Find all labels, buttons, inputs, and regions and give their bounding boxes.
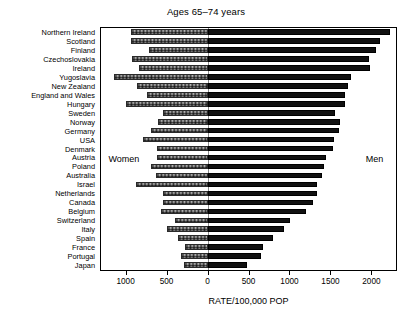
x-axis-tick bbox=[208, 271, 209, 275]
bar-row bbox=[101, 109, 396, 118]
bar-row bbox=[101, 55, 396, 64]
y-axis-label: Belgium bbox=[68, 207, 95, 216]
bar-men bbox=[208, 173, 323, 179]
x-axis-tick bbox=[330, 271, 331, 275]
bar-row bbox=[101, 82, 396, 91]
bar-women bbox=[163, 110, 208, 116]
y-axis-label: Scotland bbox=[66, 37, 95, 46]
bar-men bbox=[208, 119, 341, 125]
bar-women bbox=[137, 83, 207, 89]
bar-row bbox=[101, 234, 396, 243]
y-axis-label: Italy bbox=[81, 225, 95, 234]
bar-men bbox=[208, 226, 285, 232]
bar-row bbox=[101, 91, 396, 100]
bar-men bbox=[208, 101, 345, 107]
x-axis-tick-label: 500 bbox=[242, 277, 256, 286]
bar-women bbox=[185, 244, 208, 250]
bar-row bbox=[101, 64, 396, 73]
x-axis-tick bbox=[167, 271, 168, 275]
bar-women bbox=[131, 29, 207, 35]
y-axis-label: USA bbox=[80, 136, 95, 145]
bar-women bbox=[163, 191, 208, 197]
bar-women bbox=[158, 119, 207, 125]
bar-men bbox=[208, 47, 377, 53]
y-axis-label: England and Wales bbox=[31, 91, 95, 100]
annotation-women: Women bbox=[108, 154, 139, 164]
y-axis-label: Japan bbox=[75, 261, 95, 270]
bar-men bbox=[208, 164, 325, 170]
bar-men bbox=[208, 110, 335, 116]
bar-men bbox=[208, 218, 291, 224]
y-axis-label: Canada bbox=[69, 198, 95, 207]
bar-men bbox=[208, 65, 371, 71]
bar-women bbox=[163, 200, 208, 206]
bar-men bbox=[208, 155, 327, 161]
bar-row bbox=[101, 198, 396, 207]
y-axis-label: Ireland bbox=[72, 64, 95, 73]
y-axis-label: Denmark bbox=[65, 145, 95, 154]
bar-men bbox=[208, 56, 369, 62]
x-axis-tick bbox=[289, 271, 290, 275]
x-axis-tick-label: 500 bbox=[160, 277, 174, 286]
bar-women bbox=[151, 164, 208, 170]
chart-title: Ages 65–74 years bbox=[0, 6, 412, 17]
bar-women bbox=[139, 65, 208, 71]
bar-women bbox=[114, 74, 207, 80]
bar-row bbox=[101, 252, 396, 261]
bar-women bbox=[156, 173, 207, 179]
bar-men bbox=[208, 191, 317, 197]
y-axis-label: Poland bbox=[72, 162, 95, 171]
bar-row bbox=[101, 180, 396, 189]
bar-row bbox=[101, 37, 396, 46]
bar-row bbox=[101, 127, 396, 136]
bar-men bbox=[208, 128, 340, 134]
bar-row bbox=[101, 162, 396, 171]
x-axis-tick bbox=[126, 271, 127, 275]
bar-women bbox=[147, 92, 208, 98]
y-axis-label: Sweden bbox=[68, 109, 95, 118]
y-axis-label: Netherlands bbox=[55, 189, 95, 198]
bar-row bbox=[101, 243, 396, 252]
bar-men bbox=[208, 182, 318, 188]
x-axis-tick-label: 1000 bbox=[280, 277, 298, 286]
y-axis-label: Yugoslavia bbox=[59, 73, 95, 82]
y-axis-label: Spain bbox=[76, 234, 95, 243]
x-axis-tick-label: 2000 bbox=[362, 277, 380, 286]
y-axis-label: Austria bbox=[72, 153, 95, 162]
bar-men bbox=[208, 200, 314, 206]
y-axis-label: Germany bbox=[65, 127, 95, 136]
bar-row bbox=[101, 261, 396, 270]
x-axis-tick-label: 1000 bbox=[116, 277, 134, 286]
bar-men bbox=[208, 253, 262, 259]
annotation-men: Men bbox=[366, 154, 384, 164]
x-axis-tick-label: 0 bbox=[205, 277, 210, 286]
y-axis-label: Switzerland bbox=[57, 216, 95, 225]
y-axis-label: Hungary bbox=[67, 100, 95, 109]
bar-row bbox=[101, 28, 396, 37]
bar-row bbox=[101, 136, 396, 145]
bar-row bbox=[101, 189, 396, 198]
y-axis-label: Finland bbox=[71, 46, 95, 55]
bar-men bbox=[208, 29, 391, 35]
x-axis-tick-label: 1500 bbox=[321, 277, 339, 286]
bar-men bbox=[208, 83, 348, 89]
x-axis-tick bbox=[249, 271, 250, 275]
bar-row bbox=[101, 207, 396, 216]
bar-row bbox=[101, 118, 396, 127]
bar-women bbox=[126, 101, 208, 107]
y-axis-category-labels: Northern IrelandScotlandFinlandCzechoslo… bbox=[0, 28, 97, 270]
bar-row bbox=[101, 73, 396, 82]
y-axis-label: Israel bbox=[77, 180, 95, 189]
y-axis-label: Norway bbox=[70, 118, 95, 127]
bar-women bbox=[136, 182, 208, 188]
bar-men bbox=[208, 262, 247, 268]
bar-women bbox=[132, 56, 207, 62]
bar-men bbox=[208, 74, 351, 80]
y-axis-label: Portugal bbox=[67, 252, 95, 261]
y-axis-label: Australia bbox=[66, 171, 95, 180]
plot-area bbox=[101, 28, 396, 270]
bar-women bbox=[149, 47, 208, 53]
bar-men bbox=[208, 146, 333, 152]
bar-men bbox=[208, 244, 263, 250]
bar-men bbox=[208, 38, 380, 44]
